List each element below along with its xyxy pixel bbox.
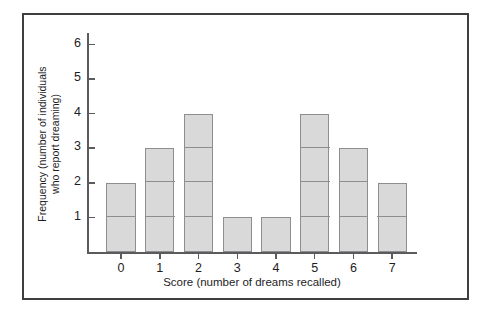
bar-2-divider-3 [184,147,214,148]
x-tick-5 [314,252,316,259]
y-tick-label-4: 4 [74,105,81,120]
bar-3 [223,217,252,252]
y-tick-4: 4 [88,113,95,115]
y-tick-label-3: 3 [74,139,81,154]
bar-4 [261,217,290,252]
y-tick-6: 6 [88,44,95,46]
bar-6-divider-2 [339,181,369,182]
bar-7-divider-1 [377,216,407,217]
x-tick-4 [275,252,277,259]
bar-1-divider-1 [145,216,175,217]
x-tick-label-5: 5 [295,261,335,276]
bar-1 [145,148,174,252]
bar-2 [184,114,213,252]
x-tick-label-7: 7 [372,261,412,276]
x-tick-2 [198,252,200,259]
x-tick-1 [159,252,161,259]
x-tick-7 [391,252,393,259]
x-tick-label-3: 3 [217,261,257,276]
plot-area: 123456 01234567 [87,33,417,253]
y-axis-label-line2: who report dreaming) [49,66,62,221]
bar-5-divider-1 [300,216,330,217]
bar-1-divider-2 [145,181,175,182]
bar-5 [300,114,329,252]
y-axis-line [87,33,89,253]
x-tick-label-2: 2 [179,261,219,276]
bar-5-divider-2 [300,181,330,182]
x-tick-label-6: 6 [333,261,373,276]
bar-0-divider-1 [106,216,136,217]
y-tick-label-6: 6 [74,36,81,51]
bar-7 [378,183,407,252]
y-tick-3: 3 [88,147,95,149]
y-tick-1: 1 [88,217,95,219]
x-tick-6 [353,252,355,259]
bar-2-divider-2 [184,181,214,182]
x-tick-3 [237,252,239,259]
x-axis-line [87,252,417,254]
y-tick-label-2: 2 [74,174,81,189]
bar-5-divider-3 [300,147,330,148]
x-tick-label-0: 0 [101,261,141,276]
bar-6 [339,148,368,252]
y-tick-label-1: 1 [74,209,81,224]
y-tick-5: 5 [88,78,95,80]
y-axis-label-line1: Frequency (number of individuals [36,66,48,221]
y-tick-2: 2 [88,182,95,184]
x-tick-0 [120,252,122,259]
figure: Frequency (number of individuals who rep… [0,0,491,315]
y-tick-label-5: 5 [74,70,81,85]
x-tick-label-1: 1 [140,261,180,276]
bar-6-divider-1 [339,216,369,217]
y-axis-label: Frequency (number of individuals who rep… [29,28,69,260]
bar-2-divider-1 [184,216,214,217]
x-axis-label: Score (number of dreams recalled) [87,276,417,288]
bar-0 [106,183,135,252]
x-tick-label-4: 4 [256,261,296,276]
